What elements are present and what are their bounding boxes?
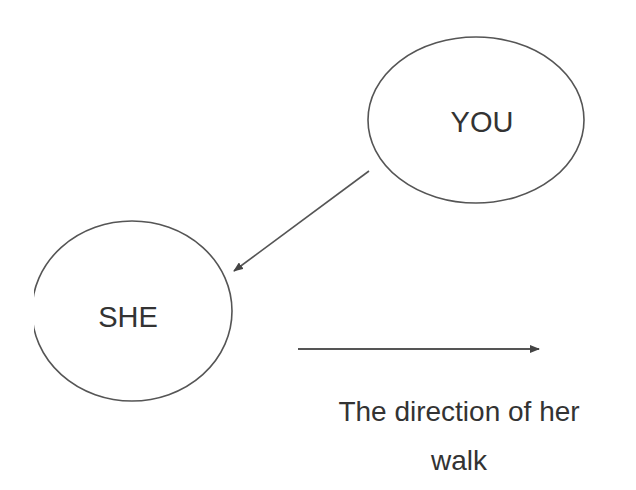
walk-caption-line2: walk [430,445,488,476]
diagram-canvas: YOU SHE The direction of her walk [0,0,636,490]
node-you-label: YOU [451,106,514,138]
edge-you-to-she-arrow [234,171,369,271]
node-you: YOU [368,37,584,203]
walk-caption-line1: The direction of her [338,396,579,427]
clip-mask [0,266,34,356]
node-she-label: SHE [98,301,158,333]
node-she: SHE [0,221,232,401]
